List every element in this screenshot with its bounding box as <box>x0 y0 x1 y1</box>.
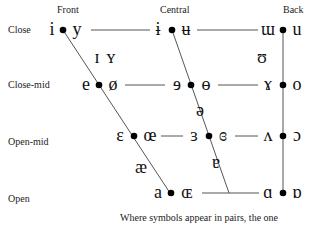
vowel-o: o <box>293 75 302 93</box>
row-close: Close <box>8 24 31 35</box>
vowel-turned-m: ɯ <box>261 20 275 38</box>
row-open: Open <box>8 193 30 204</box>
vowel-barred-i: ɨ <box>155 20 160 38</box>
vowel-turned-script-a: ɒ <box>292 183 301 201</box>
vowel-reversed-epsilon: ɜ <box>190 126 198 144</box>
vowel-barred-o: ɵ <box>202 75 211 93</box>
vowel-e: e <box>82 75 90 93</box>
vowel-y: y <box>73 20 82 38</box>
row-open-mid: Open-mid <box>8 136 49 147</box>
column-central: Central <box>160 4 189 15</box>
vowel-reversed-e: ɘ <box>173 75 181 93</box>
vowel-open-o: ɔ <box>293 126 301 144</box>
vowel-rams-horn: ɤ <box>264 75 272 93</box>
vowel-barred-u: ʉ <box>182 20 191 38</box>
vowel-small-cap-i: ɪ <box>94 48 99 66</box>
vowel-turned-a: ɐ <box>212 153 220 171</box>
vowel-a: a <box>154 183 162 201</box>
vowel-u: u <box>293 20 302 38</box>
vowel-small-cap-oe: ɶ <box>181 183 192 201</box>
vowel-closed-reversed-epsilon: ɞ <box>219 126 227 144</box>
vowel-oe: œ <box>144 126 157 144</box>
vowel-epsilon: ɛ <box>116 126 124 144</box>
row-close-mid: Close-mid <box>8 79 50 90</box>
vowel-script-a: ɑ <box>263 183 272 201</box>
footnote: Where symbols appear in pairs, the one <box>120 212 278 223</box>
column-front: Front <box>57 4 79 15</box>
vowel-o-slash: ø <box>109 75 118 93</box>
vowel-schwa: ə <box>196 101 204 119</box>
ipa-vowel-chart: Front Central Back Close Close-mid Open-… <box>0 0 312 229</box>
vowel-turned-v: ʌ <box>264 126 273 144</box>
column-back: Back <box>283 4 304 15</box>
vowel-i: i <box>49 20 54 38</box>
vowel-upsilon: ʊ <box>257 48 267 66</box>
vowel-ash: æ <box>135 158 147 176</box>
vowel-small-cap-y: ʏ <box>107 48 116 66</box>
